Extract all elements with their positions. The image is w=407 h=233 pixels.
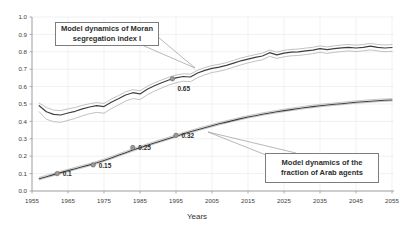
y-tick-label: 0.2 — [18, 152, 27, 159]
data-point-marker — [170, 77, 174, 81]
moran-lower-bound-line — [39, 50, 392, 122]
y-tick-label: 0.6 — [18, 83, 27, 90]
y-tick-label: 0.7 — [18, 65, 27, 72]
x-tick-label: 1985 — [133, 197, 147, 204]
x-tick-label: 2055 — [385, 197, 399, 204]
annotation-moran-line1: Model dynamics of Moran — [61, 24, 153, 34]
data-point-marker — [91, 163, 95, 167]
x-axis-title: Years — [152, 212, 242, 221]
y-tick-label: 0.8 — [18, 48, 27, 55]
annotation-leader-line — [143, 46, 195, 69]
y-tick-label: 0.3 — [18, 135, 27, 142]
data-point-label: 0.25 — [138, 144, 151, 151]
annotation-arab-fraction-box: Model dynamics of the fraction of Arab a… — [265, 153, 379, 183]
x-tick-label: 2045 — [349, 197, 363, 204]
x-tick-label: 1955 — [25, 197, 39, 204]
annotation-arab-line1: Model dynamics of the — [282, 158, 363, 168]
annotation-arab-line2: fraction of Arab agents — [281, 168, 363, 178]
x-tick-label: 1965 — [61, 197, 75, 204]
annotation-moran-index-box: Model dynamics of Moran segregation inde… — [55, 22, 159, 46]
data-point-marker — [55, 171, 59, 175]
x-tick-label: 2005 — [205, 197, 219, 204]
y-tick-label: 1.0 — [18, 13, 27, 20]
data-point-label: 0.1 — [63, 170, 72, 177]
x-tick-label: 2035 — [313, 197, 327, 204]
y-tick-label: 0.9 — [18, 31, 27, 38]
x-tick-label: 2015 — [241, 197, 255, 204]
x-tick-label: 1975 — [97, 197, 111, 204]
data-point-marker — [174, 133, 178, 137]
segregation-model-chart: 1955196519751985199520052015202520352045… — [0, 0, 407, 233]
y-tick-label: 0.4 — [18, 118, 27, 125]
annotation-moran-line2: segregation index I — [73, 34, 141, 44]
data-point-marker — [131, 145, 135, 149]
data-point-label: 0.65 — [177, 85, 190, 92]
x-tick-label: 1995 — [169, 197, 183, 204]
y-tick-label: 0.5 — [18, 100, 27, 107]
y-tick-label: 0.0 — [18, 187, 27, 194]
data-point-label: 0.32 — [182, 132, 195, 139]
annotation-leader-line — [208, 132, 296, 153]
moran-upper-bound-line — [39, 43, 392, 110]
x-tick-label: 2025 — [277, 197, 291, 204]
annotation-leader-line — [158, 37, 195, 68]
data-point-label: 0.15 — [99, 162, 112, 169]
y-tick-label: 0.1 — [18, 170, 27, 177]
